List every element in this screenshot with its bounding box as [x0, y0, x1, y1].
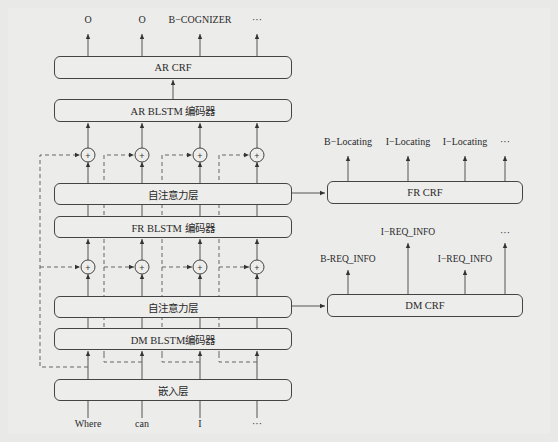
fr-output-label: I−Locating [443, 136, 488, 147]
add-icon: + [85, 263, 90, 273]
dm-blstm-encoder-box: DM BLSTM编码器 [54, 328, 292, 350]
ar-crf-box: AR CRF [54, 56, 292, 79]
input-token: I [198, 418, 201, 429]
ar-output-label: ··· [252, 14, 262, 25]
dm-output-label: ··· [500, 227, 510, 238]
input-token: Where [75, 418, 102, 429]
fr-output-label: I−Locating [386, 136, 431, 147]
ar-output-label: B−COGNIZER [169, 14, 232, 25]
add-icon: + [139, 151, 144, 161]
dm-output-label: I−REQ_INFO [381, 227, 435, 237]
add-icon: + [139, 263, 144, 273]
input-token: ··· [252, 418, 262, 429]
lower-self-attention-box: 自注意力层 [54, 296, 292, 318]
add-icon: + [85, 151, 90, 161]
fr-output-label: ··· [500, 136, 510, 147]
dm-output-label: I−REQ_INFO [438, 254, 492, 264]
dm-output-label: B-REQ_INFO [320, 254, 375, 264]
ar-blstm-encoder-box: AR BLSTM 编码器 [54, 99, 292, 122]
fr-output-label: B−Locating [324, 136, 372, 147]
add-icon: + [197, 263, 202, 273]
embedding-layer-box: 嵌入层 [54, 379, 292, 401]
dm-crf-box: DM CRF [327, 294, 523, 317]
upper-self-attention-box: 自注意力层 [54, 183, 292, 205]
add-icon: + [254, 151, 259, 161]
ar-output-label: O [84, 14, 91, 25]
add-icon: + [197, 151, 202, 161]
input-token: can [135, 418, 149, 429]
fr-crf-box: FR CRF [327, 181, 523, 204]
add-icon: + [254, 263, 259, 273]
fr-blstm-encoder-box: FR BLSTM 编码器 [54, 216, 292, 238]
ar-output-label: O [138, 14, 145, 25]
